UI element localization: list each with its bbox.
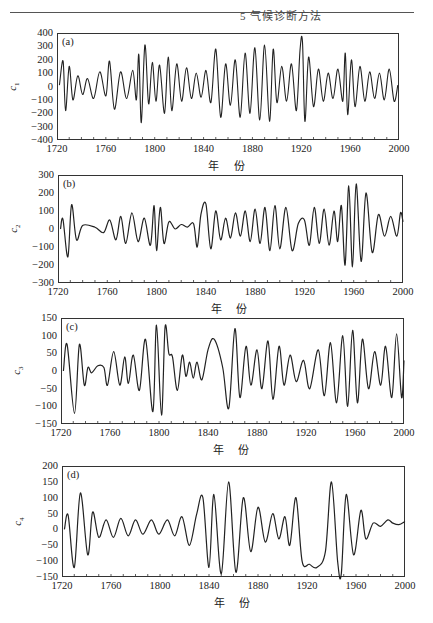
- x-tick-label: 1760: [95, 428, 125, 438]
- x-axis-label: 年 份: [213, 441, 256, 457]
- x-tick-label: 2000: [390, 581, 420, 591]
- x-axis-label: 年 份: [214, 594, 257, 610]
- y-tick-label: −300: [23, 122, 53, 132]
- y-axis-label: c2: [7, 224, 22, 232]
- x-tick-label: 1760: [92, 287, 122, 297]
- x-tick-label: 1920: [289, 287, 319, 297]
- y-tick-label: 300: [23, 41, 53, 51]
- y-axis-label: c4: [11, 517, 26, 525]
- series-line: [63, 325, 404, 415]
- chart-panel-a: (a)4003002001000−100−200−300−40017201760…: [57, 33, 399, 140]
- y-tick-label: −50: [28, 540, 58, 550]
- x-tick-label: 1880: [237, 144, 267, 154]
- y-tick-label: −100: [27, 401, 57, 411]
- chart-panel-b: (b)3002001000−100−200−300172017601800184…: [58, 175, 403, 283]
- plot-area: [61, 318, 404, 424]
- y-tick-label: 50: [27, 348, 57, 358]
- y-tick-label: 200: [24, 188, 54, 198]
- plot-frame: [63, 467, 405, 577]
- y-tick-label: 0: [23, 82, 53, 92]
- series-line: [61, 184, 404, 267]
- y-tick-label: 150: [28, 477, 58, 487]
- y-tick-label: 50: [28, 509, 58, 519]
- x-tick-label: 1840: [193, 428, 223, 438]
- y-tick-label: 300: [24, 170, 54, 180]
- x-tick-label: 1960: [340, 428, 370, 438]
- y-tick-label: −100: [28, 556, 58, 566]
- y-axis-label: c3: [10, 366, 25, 374]
- y-tick-label: 100: [23, 68, 53, 78]
- y-tick-label: 100: [27, 331, 57, 341]
- x-tick-label: 1960: [339, 287, 369, 297]
- y-tick-label: 100: [28, 493, 58, 503]
- chart-panel-d: (d)200150100500−50−100−15017201760180018…: [62, 466, 405, 577]
- panel-label: (d): [67, 469, 79, 480]
- panel-label: (b): [63, 178, 75, 189]
- y-tick-label: 0: [28, 524, 58, 534]
- x-tick-label: 1800: [144, 428, 174, 438]
- x-tick-label: 2000: [389, 428, 419, 438]
- y-axis-label: c1: [6, 82, 21, 90]
- y-tick-label: 200: [23, 55, 53, 65]
- x-tick-label: 1720: [47, 581, 77, 591]
- x-tick-label: 2000: [384, 144, 414, 154]
- x-tick-label: 1920: [292, 581, 322, 591]
- x-axis-label: 年 份: [211, 300, 254, 316]
- series-line: [59, 36, 397, 122]
- y-tick-label: 150: [27, 313, 57, 323]
- x-axis-label: 年 份: [208, 157, 251, 173]
- x-tick-label: 1760: [96, 581, 126, 591]
- y-tick-label: 0: [27, 366, 57, 376]
- x-tick-label: 1800: [145, 581, 175, 591]
- x-tick-label: 1920: [291, 428, 321, 438]
- plot-area: [57, 33, 399, 140]
- x-tick-label: 1880: [242, 428, 272, 438]
- panel-label: (a): [62, 36, 74, 47]
- y-tick-label: −100: [23, 95, 53, 105]
- x-tick-label: 1880: [243, 581, 273, 591]
- x-tick-label: 1840: [189, 144, 219, 154]
- x-tick-label: 1720: [46, 428, 76, 438]
- x-tick-label: 1760: [91, 144, 121, 154]
- x-tick-label: 1840: [191, 287, 221, 297]
- y-tick-label: −100: [24, 242, 54, 252]
- y-tick-label: −200: [24, 260, 54, 270]
- x-tick-label: 1960: [335, 144, 365, 154]
- panel-label: (c): [66, 321, 78, 332]
- y-tick-label: −50: [27, 384, 57, 394]
- plot-area: [58, 175, 403, 283]
- series-line: [64, 482, 405, 579]
- x-tick-label: 1720: [43, 287, 73, 297]
- y-tick-label: 100: [24, 206, 54, 216]
- y-tick-label: −200: [23, 108, 53, 118]
- y-tick-label: 400: [23, 28, 53, 38]
- plot-area: [62, 466, 405, 577]
- running-head-rule: 5 气候诊断方法: [10, 12, 414, 13]
- x-tick-label: 1800: [140, 144, 170, 154]
- x-tick-label: 1960: [341, 581, 371, 591]
- x-tick-label: 1840: [194, 581, 224, 591]
- x-tick-label: 1920: [286, 144, 316, 154]
- y-tick-label: 0: [24, 224, 54, 234]
- x-tick-label: 1720: [42, 144, 72, 154]
- x-tick-label: 2000: [388, 287, 418, 297]
- x-tick-label: 1880: [240, 287, 270, 297]
- y-tick-label: 200: [28, 461, 58, 471]
- running-head: 5 气候诊断方法: [240, 7, 322, 23]
- x-tick-label: 1800: [142, 287, 172, 297]
- chart-panel-c: (c)150100500−50−100−15017201760180018401…: [61, 318, 404, 424]
